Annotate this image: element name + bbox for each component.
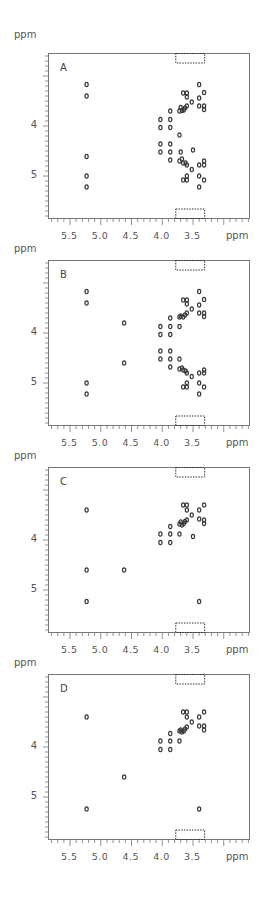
cross-peak	[159, 349, 162, 353]
cross-peak	[169, 316, 172, 320]
cross-peak	[85, 94, 88, 98]
cross-peak	[159, 739, 162, 743]
cross-peak	[198, 311, 201, 315]
cross-peak	[85, 301, 88, 305]
cross-peak	[198, 82, 201, 86]
cross-peak	[85, 185, 88, 189]
y-axis-unit-label: ppm	[14, 243, 36, 254]
cross-peak	[123, 321, 126, 325]
cross-peak	[190, 720, 193, 724]
spectrum-panel-b: ppmB455.55.04.54.03.5ppm	[0, 240, 266, 447]
cross-peak	[190, 374, 193, 378]
highlight-box	[176, 54, 205, 64]
highlight-box	[176, 468, 205, 478]
cross-peak	[85, 174, 88, 178]
cross-peak	[198, 724, 201, 728]
y-tick-label: 5	[23, 376, 37, 387]
highlight-box	[176, 416, 205, 426]
cross-peak	[190, 167, 193, 171]
panel-label: B	[60, 269, 67, 280]
cross-peak	[198, 392, 201, 396]
cross-peak	[198, 289, 201, 293]
cross-peak	[198, 185, 201, 189]
cross-peak	[198, 303, 201, 307]
cross-peak	[85, 807, 88, 811]
cross-peak	[169, 125, 172, 129]
cross-peak	[159, 125, 162, 129]
highlight-box	[176, 261, 205, 271]
cross-peak	[202, 385, 205, 389]
cross-peak	[169, 142, 172, 146]
spectrum-svg	[48, 467, 250, 641]
cross-peak	[85, 715, 88, 719]
cross-peak	[178, 324, 181, 328]
spectrum-svg	[48, 53, 250, 227]
cross-peak	[169, 747, 172, 751]
cross-peak	[85, 82, 88, 86]
x-axis-unit-label: ppm	[226, 851, 248, 862]
spectrum-panel-d: ppmD455.55.04.54.03.5ppm	[0, 654, 266, 861]
cross-peak	[169, 540, 172, 544]
cross-peak	[169, 332, 172, 336]
cross-peak	[198, 517, 201, 521]
panel-label: C	[60, 476, 67, 487]
cross-peak	[169, 117, 172, 121]
cross-peak	[159, 747, 162, 751]
highlight-box	[176, 675, 205, 685]
cross-peak	[178, 739, 181, 743]
cross-peak	[85, 392, 88, 396]
spectrum-panel-a: ppmA455.55.04.54.03.5ppm	[0, 33, 266, 240]
panel-label: A	[60, 62, 67, 73]
cross-peak	[182, 503, 185, 507]
cross-peak	[85, 154, 88, 158]
cross-peak	[198, 381, 201, 385]
cross-peak	[191, 148, 194, 152]
cross-peak	[202, 297, 205, 301]
cross-peak	[169, 150, 172, 154]
y-tick-label: 4	[23, 119, 37, 130]
cross-peak	[169, 731, 172, 735]
cross-peak	[159, 332, 162, 336]
cross-peak	[159, 532, 162, 536]
cross-peak	[182, 178, 185, 182]
cross-peak	[169, 532, 172, 536]
y-tick-label: 5	[23, 583, 37, 594]
cross-peak	[185, 508, 188, 512]
plot-area: B	[48, 260, 250, 426]
highlight-box	[176, 623, 205, 633]
y-tick-label: 5	[23, 169, 37, 180]
cross-peak	[185, 715, 188, 719]
x-tick-label: 4.0	[153, 851, 170, 862]
panel-label: D	[60, 683, 68, 694]
cross-peak	[169, 324, 172, 328]
cross-peak	[202, 503, 205, 507]
cross-peak	[179, 150, 182, 154]
x-tick-label: 3.5	[184, 851, 201, 862]
cross-peak	[190, 513, 193, 517]
y-tick-label: 4	[23, 533, 37, 544]
cross-peak	[123, 361, 126, 365]
plot-frame	[49, 261, 250, 426]
cross-peak	[185, 710, 188, 714]
cross-peak	[182, 298, 185, 302]
cross-peak	[159, 142, 162, 146]
cross-peak	[198, 371, 201, 375]
cross-peak	[169, 365, 172, 369]
cross-peak	[198, 508, 201, 512]
highlight-box	[176, 830, 205, 840]
cross-peak	[182, 710, 185, 714]
cross-peak	[198, 807, 201, 811]
x-tick-label: 5.5	[61, 851, 78, 862]
y-tick-label: 5	[23, 790, 37, 801]
cross-peak	[178, 133, 181, 137]
y-axis-unit-label: ppm	[14, 29, 36, 40]
cross-peak	[178, 357, 181, 361]
cross-peak	[202, 178, 205, 182]
spectrum-svg	[48, 260, 250, 434]
cross-peak	[85, 508, 88, 512]
x-tick-label: 5.0	[92, 851, 109, 862]
plot-area: D	[48, 674, 250, 840]
cross-peak	[198, 599, 201, 603]
cross-peak	[85, 568, 88, 572]
plot-frame	[49, 675, 250, 840]
